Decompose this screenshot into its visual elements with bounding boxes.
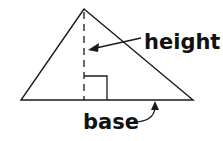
triangle-diagram: height base [0, 0, 223, 141]
right-angle-marker [84, 76, 107, 100]
height-label: height [144, 30, 220, 54]
base-label: base [83, 110, 139, 134]
